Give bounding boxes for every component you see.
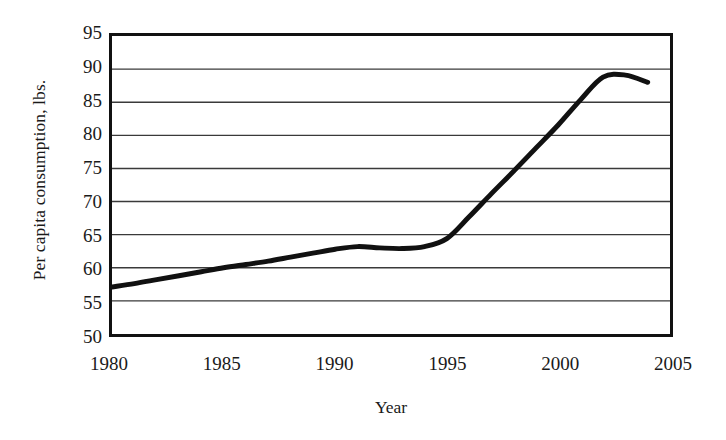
x-tick-label: 1985 [177,352,267,376]
x-axis-title: Year [109,396,673,418]
y-tick-label: 95 [52,23,102,42]
data-series-line [112,74,648,287]
y-tick-label: 55 [52,293,102,312]
line-chart-figure: Per capita consumption, lbs. 50556065707… [0,0,726,440]
plot-svg [112,36,670,334]
y-tick-label: 60 [52,259,102,278]
x-tick-label: 1990 [290,352,380,376]
y-tick-label: 50 [52,327,102,346]
y-tick-label: 75 [52,158,102,177]
x-tick-label: 2000 [515,352,605,376]
y-axis-title: Per capita consumption, lbs. [22,10,56,350]
x-tick-label: 1995 [402,352,492,376]
y-tick-label: 90 [52,57,102,76]
y-tick-label: 85 [52,91,102,110]
x-tick-label: 2005 [628,352,718,376]
y-tick-label: 65 [52,226,102,245]
x-axis-tick-labels: 198019851990199520002005 [0,352,726,382]
x-tick-label: 1980 [64,352,154,376]
gridlines [112,69,670,301]
y-tick-label: 70 [52,192,102,211]
plot-area [109,33,673,337]
y-tick-label: 80 [52,124,102,143]
